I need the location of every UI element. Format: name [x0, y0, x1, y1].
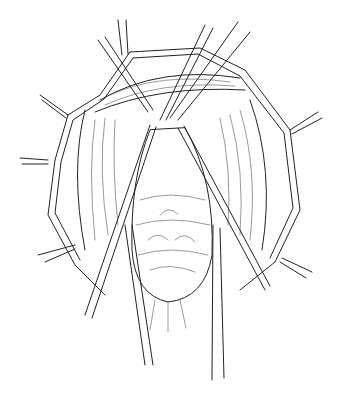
- illustration-canvas: [0, 0, 338, 399]
- left-tissue: [78, 110, 119, 250]
- surgical-illustration: [0, 0, 338, 399]
- right-tissue: [220, 100, 266, 250]
- wound-frame: [20, 20, 322, 295]
